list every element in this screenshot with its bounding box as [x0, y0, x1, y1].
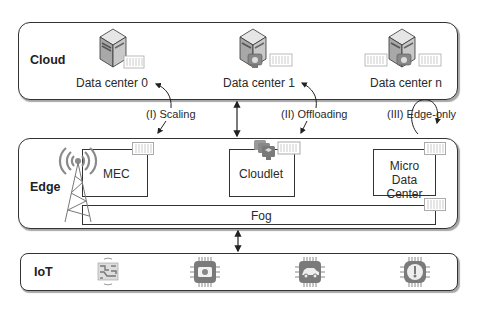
scaling-arrow-up: [156, 84, 171, 108]
scaling-arrow-down: [158, 121, 166, 133]
offloading-arrow-down: [301, 121, 307, 133]
edge-only-arrow: [412, 100, 438, 134]
arrows-layer: [0, 0, 477, 309]
offloading-arrow-up: [302, 83, 316, 108]
